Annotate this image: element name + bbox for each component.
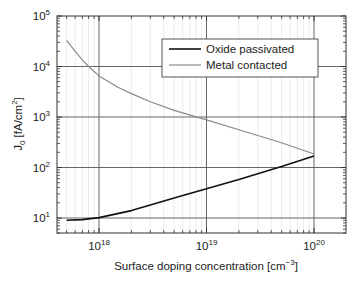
x-axis-label: Surface doping concentration [cm−3] [114, 258, 298, 272]
legend-label-metal: Metal contacted [206, 59, 287, 71]
x-tick-labels: 101810191020 [88, 238, 325, 252]
y-tick-label: 101 [33, 210, 51, 224]
y-tick-label: 102 [33, 160, 51, 174]
y-tick-label: 105 [33, 8, 51, 22]
legend: Oxide passivated Metal contacted [162, 39, 318, 77]
x-tick-label: 1018 [88, 238, 110, 252]
x-tick-label: 1019 [196, 238, 218, 252]
y-axis-label: J0 [fA/cm2] [10, 97, 27, 151]
series-oxide-passivated [67, 156, 314, 220]
legend-label-oxide: Oxide passivated [206, 43, 294, 55]
chart-canvas: 101810191020 101102103104105 Surface dop… [0, 0, 355, 283]
x-tick-label: 1020 [303, 238, 325, 252]
chart: 101810191020 101102103104105 Surface dop… [0, 0, 355, 283]
y-tick-label: 103 [33, 109, 51, 123]
y-tick-label: 104 [33, 59, 51, 73]
y-tick-labels: 101102103104105 [33, 8, 51, 224]
